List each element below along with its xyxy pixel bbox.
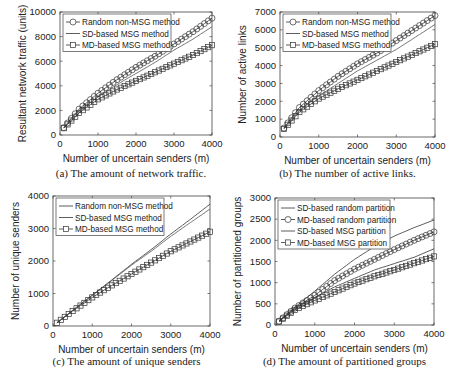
x-tick-label: 2000	[344, 328, 365, 339]
chart-b: 0100020003000400001000200030004000500060…	[237, 6, 446, 180]
legend-entry: Random non-MSG method	[75, 202, 173, 211]
legend-entry: MD-based MSG partition	[297, 239, 388, 248]
legend-entry: SD-based MSG method	[75, 214, 162, 223]
chart-a: 010002000300040000200040006000800010000N…	[17, 5, 223, 180]
figure-caption: (c) The amount of unique senders	[53, 355, 201, 368]
x-tick-label: 4000	[199, 329, 220, 340]
series-md-based-msg-method	[54, 229, 212, 325]
legend: SD-based random partitionMD-based random…	[278, 200, 397, 249]
x-tick-label: 0	[50, 329, 55, 340]
legend-entry: MD-based random partition	[297, 216, 397, 225]
x-axis-label: Number of uncertain senders (m)	[63, 153, 210, 164]
y-tick-label: 0	[51, 129, 56, 140]
legend-entry: SD-based MSG method	[82, 30, 169, 39]
y-axis-label: Number of partitioned groups	[232, 197, 243, 327]
figure-caption: (b) The number of active links.	[279, 167, 416, 180]
x-tick-label: 0	[277, 140, 282, 151]
y-tick-label: 2500	[250, 213, 271, 224]
figure-caption: (d) The amount of partitioned groups	[263, 355, 426, 368]
x-tick-label: 2000	[121, 329, 142, 340]
series-md-based-msg-partition	[276, 254, 436, 324]
y-tick-label: 4000	[35, 80, 56, 91]
x-axis-label: Number of uncertain senders (m)	[281, 343, 428, 354]
legend: Random non-MSG methodSD-based MSG method…	[283, 14, 400, 52]
legend-entry: Random non-MSG method	[82, 18, 180, 27]
x-tick-label: 1000	[304, 328, 325, 339]
x-tick-label: 2000	[347, 140, 368, 151]
y-tick-label: 2000	[255, 96, 276, 107]
x-tick-label: 3000	[386, 140, 407, 151]
x-tick-label: 3000	[384, 328, 405, 339]
legend-entry: MD-based MSG method	[75, 225, 164, 234]
y-tick-label: 6000	[35, 56, 56, 67]
y-tick-label: 0	[44, 320, 49, 331]
y-axis-label: Number of unique senders	[10, 202, 21, 320]
legend: Random non-MSG methodSD-based MSG method…	[56, 198, 173, 236]
x-tick-label: 1000	[82, 329, 103, 340]
legend-entry: SD-based MSG method	[302, 30, 389, 39]
legend-entry: MD-based MSG method	[302, 41, 391, 50]
x-tick-label: 2000	[125, 138, 146, 149]
y-tick-label: 1500	[250, 256, 271, 267]
series-md-based-msg-method	[61, 43, 214, 131]
y-tick-label: 6000	[255, 24, 276, 35]
y-tick-label: 2000	[35, 105, 56, 116]
figure-caption: (a) The amount of network traffic.	[56, 167, 207, 180]
y-tick-label: 3000	[250, 192, 271, 203]
x-tick-label: 0	[57, 138, 62, 149]
x-tick-label: 3000	[163, 138, 184, 149]
x-tick-label: 1000	[87, 138, 108, 149]
y-tick-label: 7000	[255, 6, 276, 17]
y-tick-label: 3000	[28, 223, 49, 234]
y-tick-label: 2000	[28, 255, 49, 266]
y-tick-label: 10000	[30, 6, 56, 17]
y-tick-label: 5000	[255, 42, 276, 53]
y-tick-label: 2000	[250, 235, 271, 246]
y-tick-label: 1000	[28, 288, 49, 299]
y-tick-label: 8000	[35, 31, 56, 42]
y-tick-label: 500	[255, 298, 271, 309]
y-tick-label: 3000	[255, 78, 276, 89]
chart-c: 0100020003000400001000200030004000Number…	[10, 190, 221, 368]
y-axis-label: Resultant network traffic (units)	[17, 5, 28, 143]
legend: Random non-MSG methodSD-based MSG method…	[63, 14, 180, 52]
x-axis-label: Number of uncertain senders (m)	[284, 155, 431, 166]
x-tick-label: 1000	[308, 140, 329, 151]
legend-entry: SD-based random partition	[297, 204, 395, 213]
x-tick-label: 3000	[160, 329, 181, 340]
y-tick-label: 4000	[28, 190, 49, 201]
y-axis-label: Number of active links	[237, 25, 248, 123]
series-md-based-msg-method	[281, 42, 437, 132]
x-tick-label: 0	[272, 328, 277, 339]
y-tick-label: 0	[266, 319, 271, 330]
chart-d: 0100020003000400005001000150020002500300…	[232, 192, 445, 368]
legend-entry: Random non-MSG method	[302, 18, 400, 27]
y-tick-label: 4000	[255, 60, 276, 71]
legend-entry: SD-based MSG partition	[297, 227, 386, 236]
y-tick-label: 0	[271, 131, 276, 142]
y-tick-label: 1000	[255, 113, 276, 124]
x-tick-label: 4000	[424, 140, 445, 151]
x-tick-label: 4000	[201, 138, 222, 149]
charts-canvas: 010002000300040000200040006000800010000N…	[0, 0, 455, 388]
y-tick-label: 1000	[250, 277, 271, 288]
x-axis-label: Number of uncertain senders (m)	[58, 344, 205, 355]
x-tick-label: 4000	[423, 328, 444, 339]
legend-entry: MD-based MSG method	[82, 41, 171, 50]
